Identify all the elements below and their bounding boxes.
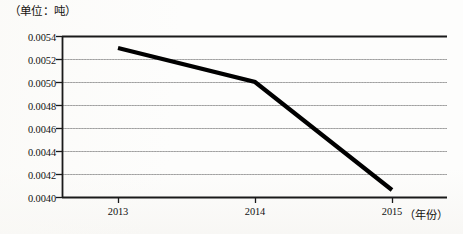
- plot-area: [0, 0, 463, 234]
- y-axis-ticks: [56, 37, 62, 198]
- x-tick-label-2015: 2015: [382, 206, 402, 217]
- x-tick-label-2014: 2014: [245, 206, 265, 217]
- data-line-series: [118, 48, 392, 190]
- line-chart: （单位：吨） 0.0054 0.0052 0.0050 0.0048 0.004…: [0, 0, 463, 234]
- x-axis-title: （年份）: [404, 206, 448, 222]
- gridlines: [62, 60, 447, 175]
- x-tick-label-2013: 2013: [108, 206, 128, 217]
